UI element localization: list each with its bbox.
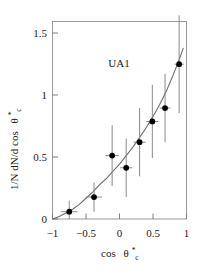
x-tick-label--0.5: −0.5: [76, 227, 96, 239]
data-point-marker: [176, 61, 182, 67]
plot-annotation-ua1: UA1: [108, 57, 129, 69]
error-bars-layer: [61, 15, 184, 219]
svg-text:cos θ *: cos θ * c: [101, 243, 139, 263]
y-tick-label-0.5: 0.5: [33, 151, 47, 163]
fit-curve-layer: [53, 48, 184, 219]
chart-svg: 1.5 1 0.5 0 −1 −0.5 0 0.5 1 cos θ * c 1/…: [0, 0, 203, 278]
x-axis-label-base: cos: [101, 247, 116, 259]
y-axis-label-theta: θ: [8, 118, 20, 123]
y-tick-label-1: 1: [42, 89, 48, 101]
y-axis-label-base: 1/N dN/d cos: [8, 131, 20, 190]
svg-text:1/N dN/d cos θ: 1/N dN/d cos θ * c: [4, 108, 24, 190]
x-tick-label-0: 0: [117, 227, 123, 239]
y-tick-label-1.5: 1.5: [33, 27, 47, 39]
data-point-marker: [109, 153, 115, 159]
x-axis-label-theta: θ: [123, 247, 128, 259]
data-point-marker: [162, 105, 168, 111]
data-point-marker: [91, 194, 97, 200]
x-axis-label-sub: c: [135, 253, 139, 262]
fit-curve: [53, 48, 184, 219]
data-point-marker: [149, 119, 155, 125]
y-tick-label-0: 0: [42, 213, 48, 225]
data-point-marker: [123, 165, 129, 171]
x-tick-label-0.5: 0.5: [146, 227, 160, 239]
y-axis-ticks: [53, 33, 59, 219]
y-axis-label: 1/N dN/d cos θ * c: [4, 108, 24, 190]
x-tick-label--1: −1: [47, 227, 59, 239]
x-axis-label: cos θ * c: [101, 243, 139, 263]
x-tick-label-1: 1: [184, 227, 190, 239]
y-axis-label-sub: c: [14, 108, 23, 112]
x-axis-ticks: [53, 214, 187, 220]
data-point-marker: [66, 209, 72, 215]
figure-container: 1.5 1 0.5 0 −1 −0.5 0 0.5 1 cos θ * c 1/…: [0, 0, 203, 278]
plot-frame: [53, 22, 187, 220]
data-point-marker: [137, 139, 143, 145]
